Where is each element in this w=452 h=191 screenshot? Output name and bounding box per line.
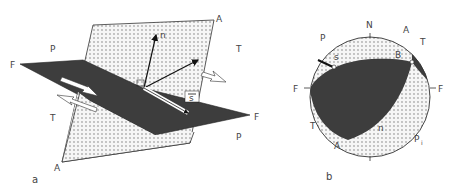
label-a-p-top: P — [50, 44, 56, 54]
label-b-p-top: P — [320, 33, 326, 43]
label-a-fault-left: F — [10, 60, 15, 70]
motion-arrow-right — [201, 71, 226, 82]
slip-point — [332, 65, 336, 69]
label-b-p-bottom: P — [414, 134, 420, 144]
panel-b-caption: b — [326, 171, 332, 182]
label-b-t-left: T — [309, 121, 316, 131]
label-b-a-top: A — [403, 25, 410, 35]
focal-mechanism-figure: s A A F F n P T T P a — [0, 0, 452, 191]
label-b-a-bottom: A — [334, 141, 341, 151]
label-b-p-subscript: i — [421, 139, 423, 146]
label-a-aux-bottom: A — [54, 163, 61, 173]
label-a-t-top: T — [235, 44, 242, 54]
panel-a: s A A F F n P T T P a — [10, 14, 259, 185]
label-b-north: N — [366, 20, 373, 30]
label-a-normal: n — [160, 30, 166, 40]
panel-b: N A T P s B F F T A n P i b — [293, 20, 443, 182]
label-b-t-top: T — [419, 37, 426, 47]
label-b-slip: s — [334, 52, 339, 62]
label-b-f-right: F — [438, 84, 443, 94]
label-a-p-bottom: P — [236, 132, 242, 142]
label-a-fault-right: F — [254, 112, 259, 122]
label-a-aux-top: A — [216, 14, 223, 24]
b-axis-point — [410, 60, 414, 64]
label-a-t-bottom: T — [49, 113, 56, 123]
label-b-b-axis: B — [395, 50, 401, 60]
panel-a-caption: a — [32, 174, 38, 185]
slip-label: s — [189, 93, 194, 103]
label-b-normal: n — [378, 123, 384, 133]
label-b-f-left: F — [293, 84, 298, 94]
